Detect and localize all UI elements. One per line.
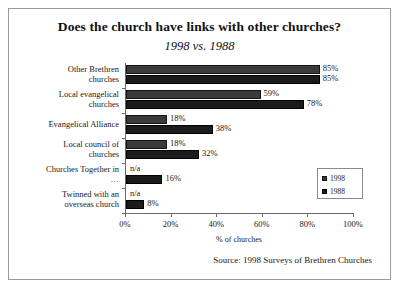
x-tick-label: 80%: [300, 219, 316, 229]
x-axis-title: % of churches: [125, 235, 353, 244]
category-label-line: churches: [14, 100, 119, 110]
category-label: Churches Together in…: [14, 165, 119, 184]
bar-1988: [126, 125, 213, 134]
category-label-line: Twinned with an: [62, 189, 119, 199]
category-label-line: Evangelical Alliance: [48, 119, 119, 129]
bar-value-label: 16%: [165, 174, 181, 183]
x-tick-label: 0%: [119, 219, 130, 229]
bar-value-label: 38%: [216, 124, 232, 133]
bar-value-label: 85%: [323, 74, 339, 83]
bar-value-label: n/a: [130, 189, 140, 198]
chart-frame: Does the church have links with other ch…: [8, 8, 391, 280]
bar-1988: [126, 175, 162, 184]
x-tick: [307, 213, 308, 217]
bar-1998: [126, 140, 167, 149]
category-label: Local council ofchurches: [14, 140, 119, 159]
category-label: Other Brethrenchurches: [14, 65, 119, 84]
bar-1988: [126, 200, 144, 209]
bar-value-label: 85%: [323, 64, 339, 73]
category-label-line: …: [14, 175, 119, 185]
x-tick-label: 100%: [343, 219, 363, 229]
bar-value-label: 32%: [202, 149, 218, 158]
bar-1998: [126, 90, 261, 99]
bar-value-label: 8%: [147, 199, 158, 208]
bar-1988: [126, 100, 304, 109]
x-tick-label: 40%: [208, 219, 224, 229]
bar-1998: [126, 65, 320, 74]
x-tick: [125, 213, 126, 217]
x-tick: [262, 213, 263, 217]
legend-swatch-1988: [322, 189, 327, 194]
x-tick: [216, 213, 217, 217]
bar-group: Evangelical Alliance18%38%: [126, 113, 354, 138]
x-axis-line: [125, 213, 353, 214]
source-note: Source: 1998 Surveys of Brethren Churche…: [213, 255, 372, 265]
bar-value-label: 18%: [170, 114, 186, 123]
category-label: Evangelical Alliance: [14, 120, 119, 130]
legend-label-1998: 1998: [330, 174, 345, 183]
bar-value-label: 78%: [307, 99, 323, 108]
bar-1988: [126, 150, 199, 159]
category-label-line: Local evangelical: [59, 89, 119, 99]
legend-swatch-1998: [322, 176, 327, 181]
category-label-line: Other Brethren: [68, 64, 119, 74]
legend-item-1998: 1998: [322, 174, 345, 183]
category-label: Twinned with anoverseas church: [14, 190, 119, 209]
bar-1988: [126, 75, 320, 84]
x-tick-label: 60%: [254, 219, 270, 229]
x-tick-label: 20%: [163, 219, 179, 229]
bar-group: Local evangelicalchurches59%78%: [126, 88, 354, 113]
bar-1998: [126, 115, 167, 124]
chart-title: Does the church have links with other ch…: [9, 19, 390, 35]
category-label-line: churches: [14, 150, 119, 160]
x-tick: [353, 213, 354, 217]
category-label-line: churches: [14, 75, 119, 85]
category-label-line: overseas church: [14, 200, 119, 210]
chart-legend: 1998 1988: [317, 168, 363, 199]
bar-value-label: n/a: [130, 164, 140, 173]
category-label-line: Local council of: [63, 139, 119, 149]
bar-value-label: 59%: [264, 89, 280, 98]
bar-group: Other Brethrenchurches85%85%: [126, 63, 354, 88]
bar-value-label: 18%: [170, 139, 186, 148]
chart-subtitle: 1998 vs. 1988: [9, 39, 390, 54]
legend-label-1988: 1988: [330, 187, 345, 196]
category-label: Local evangelicalchurches: [14, 90, 119, 109]
category-label-line: Churches Together in: [46, 164, 119, 174]
x-tick: [171, 213, 172, 217]
legend-item-1988: 1988: [322, 187, 345, 196]
bar-group: Local council ofchurches18%32%: [126, 138, 354, 163]
